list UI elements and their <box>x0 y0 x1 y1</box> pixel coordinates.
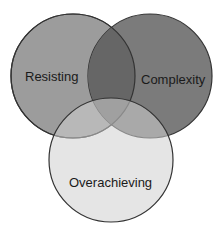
label-complexity: Complexity <box>141 72 206 87</box>
label-overachieving: Overachieving <box>69 175 152 190</box>
circle-overachieving <box>49 98 173 222</box>
venn-diagram: Resisting Complexity Overachieving <box>0 0 223 232</box>
label-resisting: Resisting <box>25 69 78 84</box>
